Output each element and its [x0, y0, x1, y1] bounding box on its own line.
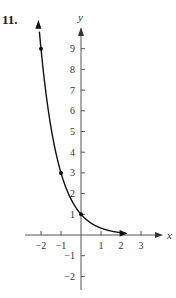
data-point [39, 47, 43, 51]
exponential-graph: xy−2−1123−2−1123456789 [0, 0, 176, 298]
data-point [79, 212, 83, 216]
y-tick-label: 3 [70, 167, 75, 178]
y-tick-label: 5 [70, 126, 75, 137]
x-tick-label: 1 [99, 240, 104, 251]
y-tick-label: 7 [70, 85, 75, 96]
x-tick-label: 2 [119, 240, 124, 251]
y-tick-label: 4 [70, 147, 75, 158]
y-tick-label: 1 [70, 209, 75, 220]
y-tick-label: −1 [64, 250, 75, 261]
y-tick-label: 6 [70, 105, 75, 116]
y-tick-label: 9 [70, 43, 75, 54]
curve-arrow-up-icon [35, 20, 41, 29]
x-tick-label: −2 [36, 240, 47, 251]
function-curve [39, 32, 125, 234]
y-tick-label: −2 [64, 271, 75, 282]
y-axis-label: y [77, 11, 83, 23]
x-axis-arrow-icon [155, 232, 163, 238]
y-axis-arrow-icon [78, 27, 84, 36]
x-tick-label: 3 [139, 240, 144, 251]
data-point [59, 171, 63, 175]
x-axis-label: x [166, 229, 172, 241]
y-tick-label: 8 [70, 64, 75, 75]
